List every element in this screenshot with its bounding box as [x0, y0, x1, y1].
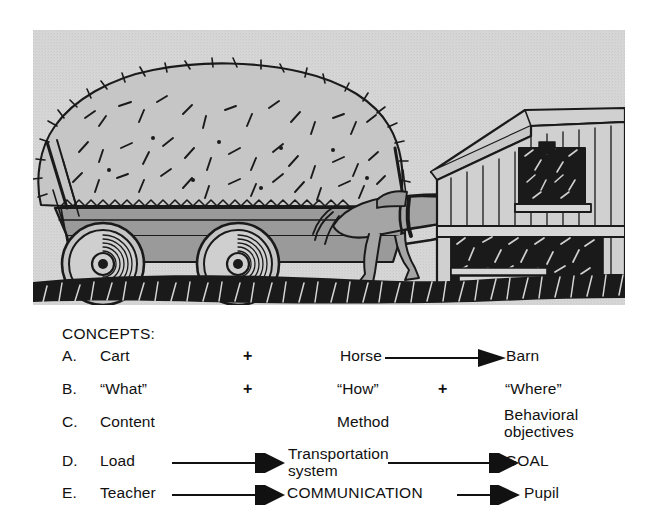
row-c-col3: Behavioral objectives: [504, 406, 578, 441]
illustration-drawing: [33, 30, 625, 305]
row-c-col2: Method: [337, 414, 389, 430]
row-b-col3: “Where”: [505, 381, 562, 397]
row-d-col2: Transportation system: [288, 445, 389, 480]
row-letter-e: E.: [62, 485, 77, 501]
illustration-panel: [33, 30, 625, 305]
row-b-operator-1: +: [243, 381, 252, 398]
row-a-arrow-to-col3: [385, 348, 507, 368]
row-a-col3: Barn: [506, 348, 539, 364]
row-letter-a: A.: [62, 348, 77, 364]
concepts-diagram: CONCEPTS: A. Cart + Horse Barn B. “What”…: [0, 318, 656, 531]
ground-path-icon: [33, 274, 625, 304]
row-d-arrow-to-col3: [388, 453, 520, 473]
row-d-col1: Load: [100, 453, 135, 469]
row-letter-b: B.: [62, 381, 77, 397]
row-c-col1: Content: [100, 414, 155, 430]
row-b-col1: “What”: [100, 381, 147, 397]
row-a-col1: Cart: [100, 348, 130, 364]
row-e-col2: COMMUNICATION: [287, 485, 423, 501]
row-e-arrow-to-col2: [172, 485, 286, 505]
row-b-operator-2: +: [438, 381, 447, 398]
row-e-col3: Pupil: [524, 485, 559, 501]
row-e-arrow-to-col3: [457, 485, 521, 505]
row-a-operator-1: +: [243, 348, 252, 365]
row-b-col2: “How”: [337, 381, 379, 397]
row-a-col2: Horse: [340, 348, 382, 364]
row-letter-d: D.: [62, 453, 78, 469]
row-d-col3: GOAL: [505, 453, 549, 469]
concepts-heading: CONCEPTS:: [62, 326, 155, 342]
row-e-col1: Teacher: [100, 485, 156, 501]
row-d-arrow-to-col2: [172, 453, 286, 473]
row-letter-c: C.: [62, 414, 78, 430]
